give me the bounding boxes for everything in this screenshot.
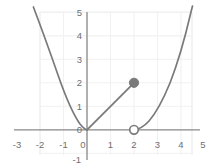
y-tick-label: -1 (73, 154, 81, 165)
x-tick-label: 1 (108, 139, 113, 150)
y-tick-label: 5 (77, 7, 82, 18)
y-tick-label: 3 (77, 54, 82, 65)
x-tick-label: 3 (155, 139, 160, 150)
graph-container: -3 -2 -1 0 1 2 3 4 5 -1 0 1 2 3 4 5 (0, 0, 212, 166)
y-tick-label: 1 (77, 101, 82, 112)
x-tick-label: 0 (80, 139, 85, 150)
y-tick-label: 4 (77, 30, 82, 41)
y-tick-label: 0 (77, 124, 82, 135)
y-tick-label: 2 (77, 77, 82, 88)
x-tick-label: -1 (59, 139, 67, 150)
closed-endpoint-marker (129, 78, 138, 87)
open-endpoint-marker (130, 126, 139, 135)
x-tick-label: 2 (131, 139, 136, 150)
x-tick-label: -3 (13, 139, 21, 150)
x-tick-label: -2 (36, 139, 44, 150)
x-tick-label: 4 (178, 139, 183, 150)
function-graph: -3 -2 -1 0 1 2 3 4 5 -1 0 1 2 3 4 5 (0, 0, 212, 166)
x-tick-label: 5 (200, 139, 205, 150)
